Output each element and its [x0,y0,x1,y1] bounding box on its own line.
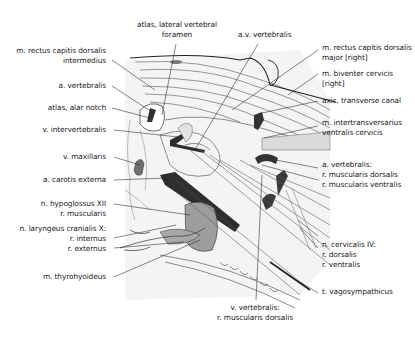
label-av-vertebralis: a.v. vertebralis [238,30,291,40]
label-m-rectus-capitis-dorsalis-major: m. rectus capitis dorsalis major [right] [322,43,412,63]
label-axis-transverse-canal: axis, transverse canal [322,96,401,106]
label-a-carotis-externa: a. carotis externa [2,175,106,185]
label-a-vertebralis-rami: a. vertebralis: r. muscularis dorsalis r… [322,160,401,190]
label-m-rectus-capitis-dorsalis-intermedius: m. rectus capitis dorsalis intermedius [2,46,106,66]
label-m-biventer-cervicis: m. biventer cervicis [right] [322,69,393,89]
gland-gray-region [185,202,218,251]
label-t-vagosympathicus: t. vagosympathicus [322,287,393,297]
dorsal-fat-pad [170,60,182,64]
label-atlas-alar-notch: atlas, alar notch [2,103,106,113]
label-n-cervicalis-iv: n. cervicalis IV: r. dorsalis r. ventral… [322,240,376,270]
label-v-intervertebralis: v. intervertebralis [2,125,106,135]
label-n-hypoglossus: n. hypoglossus XII r. muscularis [2,199,106,219]
label-atlas-lateral-vertebral-foramen: atlas, lateral vertebral foramen [122,20,232,40]
label-m-intertransversarius: m. intertransversarius ventralis cervici… [322,118,402,138]
label-n-laryngeus-cranialis: n. laryngeus cranialis X: r. internus r.… [2,224,106,254]
label-a-vertebralis: a. vertebralis [2,81,106,91]
label-v-vertebralis: v. vertebralis: r. muscularis dorsalis [200,303,310,323]
label-v-maxillaris: v. maxillaris [2,152,106,162]
anatomy-figure: atlas, lateral vertebral foramen a.v. ve… [0,0,415,340]
label-m-thyrohyoideus: m. thyrohyoideus [2,272,106,282]
